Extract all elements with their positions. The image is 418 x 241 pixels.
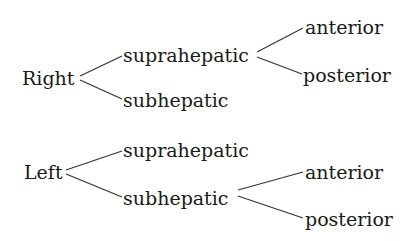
- node-right-suprahepatic: suprahepatic: [123, 46, 249, 65]
- line-right-suprahepatic-to-anterior: [257, 28, 303, 52]
- node-right: Right: [22, 69, 74, 88]
- node-left-subhepatic: subhepatic: [123, 189, 228, 208]
- hepatic-branch-tree-diagram: Right suprahepatic subhepatic anterior p…: [0, 0, 418, 241]
- line-left-subhepatic-to-posterior: [238, 196, 303, 218]
- line-right-to-subhepatic: [80, 80, 122, 99]
- node-left-suprahepatic: suprahepatic: [123, 141, 249, 160]
- line-left-to-suprahepatic: [66, 151, 122, 170]
- line-left-to-subhepatic: [66, 174, 122, 197]
- node-left-subhepatic-anterior: anterior: [305, 163, 383, 182]
- node-left-subhepatic-posterior: posterior: [305, 210, 393, 229]
- node-left: Left: [24, 163, 63, 182]
- node-right-subhepatic: subhepatic: [123, 91, 228, 110]
- node-right-suprahepatic-anterior: anterior: [305, 18, 383, 37]
- line-left-subhepatic-to-anterior: [238, 172, 303, 190]
- node-right-suprahepatic-posterior: posterior: [303, 66, 391, 85]
- line-right-to-suprahepatic: [80, 56, 122, 76]
- line-right-suprahepatic-to-posterior: [257, 57, 302, 74]
